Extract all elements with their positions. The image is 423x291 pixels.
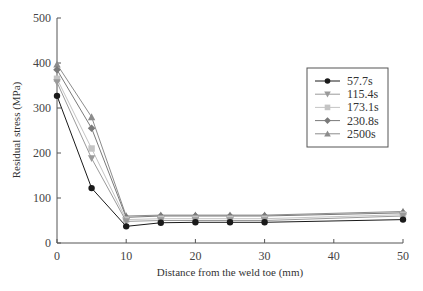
- x-tick-label: 30: [259, 249, 271, 263]
- y-tick-label: 400: [33, 56, 51, 70]
- x-tick-label: 50: [397, 249, 409, 263]
- circle-marker-icon: [123, 223, 129, 229]
- y-tick-label: 200: [33, 146, 51, 160]
- y-tick-label: 300: [33, 101, 51, 115]
- x-tick-label: 10: [120, 249, 132, 263]
- triangle-down-marker-icon: [88, 155, 95, 162]
- circle-marker-icon: [325, 78, 331, 84]
- circle-marker-icon: [400, 216, 406, 222]
- circle-marker-icon: [54, 93, 60, 99]
- legend-label: 2500s: [347, 127, 376, 141]
- triangle-up-marker-icon: [88, 113, 95, 120]
- circle-marker-icon: [261, 219, 267, 225]
- y-tick-label: 500: [33, 11, 51, 25]
- square-marker-icon: [88, 145, 94, 151]
- residual-stress-chart: 010020030040050001020304050 57.7s115.4s1…: [0, 0, 423, 291]
- legend-label: 57.7s: [347, 74, 373, 88]
- legend-label: 230.8s: [347, 114, 379, 128]
- x-axis-title: Distance from the weld toe (mm): [157, 266, 304, 279]
- circle-marker-icon: [158, 220, 164, 226]
- y-tick-label: 100: [33, 191, 51, 205]
- legend: 57.7s115.4s173.1s230.8s2500s: [307, 68, 388, 147]
- y-axis-title: Residual stress (MPa): [10, 81, 23, 178]
- x-tick-label: 0: [54, 249, 60, 263]
- y-tick-label: 0: [45, 236, 51, 250]
- x-tick-label: 20: [189, 249, 201, 263]
- x-tick-label: 40: [328, 249, 340, 263]
- legend-label: 173.1s: [347, 100, 379, 114]
- square-marker-icon: [325, 105, 331, 111]
- circle-marker-icon: [227, 219, 233, 225]
- legend-label: 115.4s: [347, 87, 379, 101]
- circle-marker-icon: [88, 185, 94, 191]
- circle-marker-icon: [192, 219, 198, 225]
